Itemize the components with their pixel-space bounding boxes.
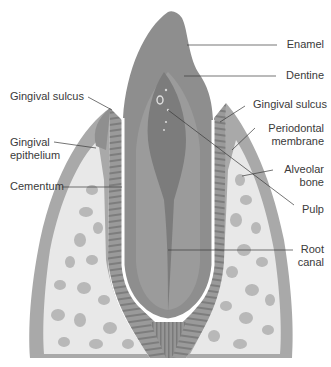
label-gingival-epithelium-line1: Gingival [10, 136, 60, 149]
label-alveolar-line2: bone [270, 176, 324, 189]
leader-gingival-sulcus-left [88, 97, 112, 110]
label-cementum: Cementum [10, 180, 64, 193]
label-gingival-epithelium-line2: epithelium [10, 149, 60, 162]
label-periodontal-line1: Periodontal [250, 122, 324, 135]
label-gingival-sulcus-right: Gingival sulcus [243, 98, 327, 111]
label-periodontal-membrane: Periodontal membrane [250, 122, 324, 148]
tooth [123, 11, 213, 320]
label-root-canal-line1: Root [290, 243, 324, 256]
label-root-canal-line2: canal [290, 256, 324, 269]
label-alveolar-line1: Alveolar [270, 163, 324, 176]
label-enamel: Enamel [280, 38, 324, 51]
label-root-canal: Root canal [290, 243, 324, 269]
label-alveolar-bone: Alveolar bone [270, 163, 324, 189]
label-gingival-epithelium: Gingival epithelium [10, 136, 60, 162]
label-gingival-sulcus-left: Gingival sulcus [10, 90, 84, 103]
label-pulp: Pulp [290, 203, 324, 216]
label-periodontal-line2: membrane [250, 135, 324, 148]
label-dentine: Dentine [278, 69, 324, 82]
